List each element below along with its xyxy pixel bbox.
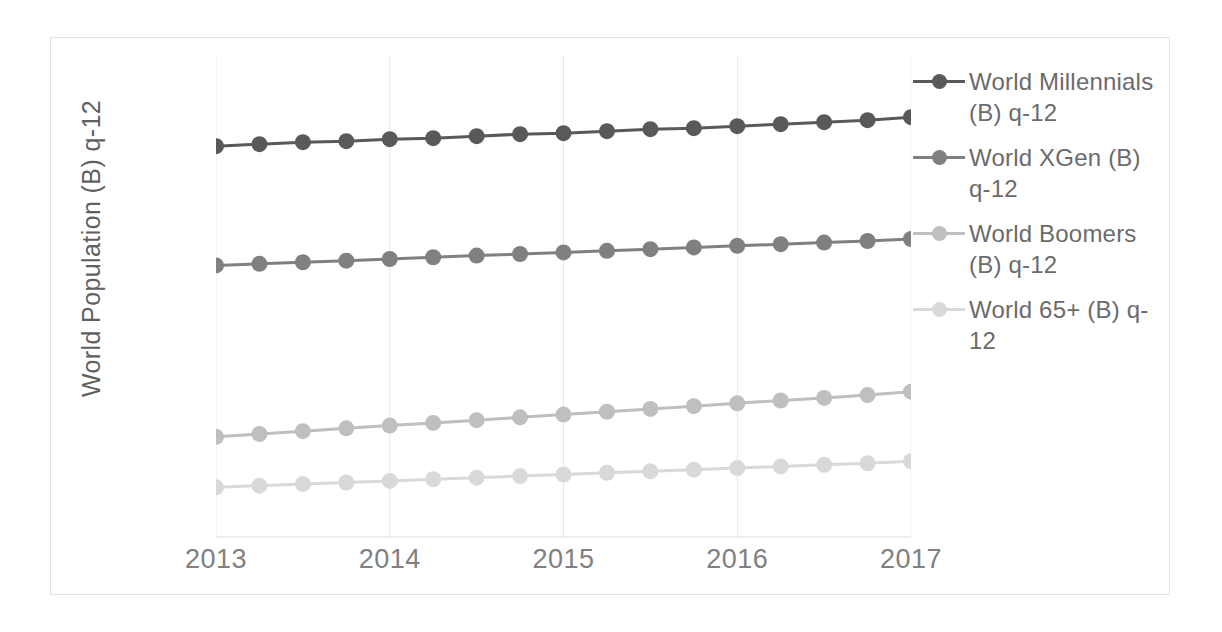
data-point-marker: [295, 134, 311, 150]
chart-container: World Population (B) q-12 20132014201520…: [50, 37, 1170, 595]
data-point-marker: [903, 231, 911, 247]
data-point-marker: [729, 460, 745, 476]
legend-item[interactable]: World 65+ (B) q-12: [913, 294, 1163, 356]
data-point-marker: [512, 126, 528, 142]
data-point-marker: [556, 244, 572, 260]
data-point-marker: [382, 473, 398, 489]
data-point-marker: [251, 478, 267, 494]
legend-label: World Millennials (B) q-12: [969, 66, 1163, 128]
data-point-marker: [642, 121, 658, 137]
data-point-marker: [816, 114, 832, 130]
legend-label: World XGen (B) q-12: [969, 142, 1163, 204]
data-point-marker: [382, 131, 398, 147]
x-axis-tick-label: 2016: [706, 544, 768, 575]
data-point-marker: [469, 248, 485, 264]
x-axis-tick-label: 2017: [880, 544, 942, 575]
data-point-marker: [773, 393, 789, 409]
data-point-marker: [686, 462, 702, 478]
legend-swatch-icon: [913, 218, 965, 248]
data-point-marker: [382, 251, 398, 267]
legend-marker-dot: [932, 226, 947, 241]
data-point-marker: [295, 254, 311, 270]
legend-marker-dot: [932, 150, 947, 165]
plot-area: [216, 56, 911, 538]
data-point-marker: [338, 133, 354, 149]
data-point-marker: [556, 466, 572, 482]
data-point-marker: [816, 235, 832, 251]
data-point-marker: [773, 116, 789, 132]
data-point-marker: [382, 418, 398, 434]
data-point-marker: [251, 426, 267, 442]
data-point-marker: [903, 384, 911, 400]
data-point-marker: [729, 118, 745, 134]
data-point-marker: [216, 479, 224, 495]
data-point-marker: [860, 455, 876, 471]
legend-label: World 65+ (B) q-12: [969, 294, 1163, 356]
data-point-marker: [599, 404, 615, 420]
data-point-marker: [903, 453, 911, 469]
data-point-marker: [469, 470, 485, 486]
data-point-marker: [599, 123, 615, 139]
legend-swatch-icon: [913, 66, 965, 96]
data-point-marker: [512, 246, 528, 262]
data-point-marker: [338, 420, 354, 436]
data-point-marker: [729, 238, 745, 254]
data-point-marker: [816, 390, 832, 406]
x-axis-tick-label: 2013: [185, 544, 247, 575]
data-point-marker: [686, 398, 702, 414]
data-point-marker: [512, 409, 528, 425]
x-axis-tick-label: 2014: [359, 544, 421, 575]
data-point-marker: [425, 415, 441, 431]
data-point-marker: [599, 465, 615, 481]
legend-item[interactable]: World Millennials (B) q-12: [913, 66, 1163, 128]
data-point-marker: [469, 128, 485, 144]
data-point-marker: [686, 120, 702, 136]
legend-swatch-icon: [913, 142, 965, 172]
data-point-marker: [295, 476, 311, 492]
data-point-marker: [599, 243, 615, 259]
data-point-marker: [642, 241, 658, 257]
data-point-marker: [773, 236, 789, 252]
legend-swatch-icon: [913, 294, 965, 324]
data-point-marker: [773, 458, 789, 474]
line-chart-svg: [216, 56, 911, 538]
data-point-marker: [860, 233, 876, 249]
chart-legend: World Millennials (B) q-12World XGen (B)…: [913, 66, 1163, 370]
data-point-marker: [469, 412, 485, 428]
data-point-marker: [216, 257, 224, 273]
legend-marker-dot: [932, 302, 947, 317]
data-point-marker: [686, 239, 702, 255]
x-axis-tick-labels: 20132014201520162017: [216, 544, 911, 590]
data-point-marker: [251, 136, 267, 152]
data-point-marker: [642, 463, 658, 479]
data-point-marker: [338, 253, 354, 269]
data-point-marker: [729, 395, 745, 411]
legend-label: World Boomers (B) q-12: [969, 218, 1163, 280]
legend-marker-dot: [932, 74, 947, 89]
legend-item[interactable]: World Boomers (B) q-12: [913, 218, 1163, 280]
data-point-marker: [512, 468, 528, 484]
data-point-marker: [216, 138, 224, 154]
data-point-marker: [425, 471, 441, 487]
data-point-marker: [295, 423, 311, 439]
legend-item[interactable]: World XGen (B) q-12: [913, 142, 1163, 204]
data-point-marker: [903, 109, 911, 125]
data-point-marker: [860, 387, 876, 403]
data-point-marker: [556, 125, 572, 141]
data-point-marker: [860, 112, 876, 128]
data-point-marker: [425, 249, 441, 265]
y-axis-title: World Population (B) q-12: [77, 39, 106, 459]
data-point-marker: [251, 256, 267, 272]
data-point-marker: [338, 474, 354, 490]
x-axis-tick-label: 2015: [532, 544, 594, 575]
data-point-marker: [425, 130, 441, 146]
data-point-marker: [816, 457, 832, 473]
data-point-marker: [642, 401, 658, 417]
data-point-marker: [556, 407, 572, 423]
data-point-marker: [216, 429, 224, 445]
